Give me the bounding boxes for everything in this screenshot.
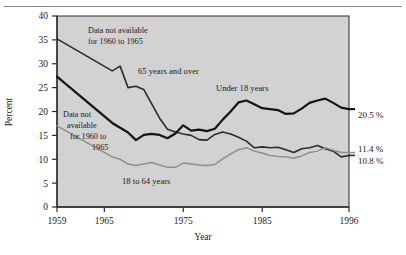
chart-svg: 0510152025303540 19591965197519851996 Pe… (0, 0, 406, 255)
y-tick-label: 5 (43, 179, 48, 189)
x-tick-label: 1985 (253, 216, 272, 226)
y-axis-ticks: 0510152025303540 (39, 11, 58, 212)
series-label-children: Under 18 years (216, 83, 269, 93)
end-label-elderly: 10.8 % (358, 156, 384, 166)
y-tick-label: 25 (39, 83, 49, 93)
x-axis-title: Year (194, 232, 212, 242)
y-tick-label: 35 (39, 35, 49, 45)
x-tick-label: 1975 (174, 216, 193, 226)
series-label-elderly: 65 years and over (138, 66, 199, 76)
y-tick-label: 40 (39, 11, 49, 21)
poverty-rate-line-chart: 0510152025303540 19591965197519851996 Pe… (0, 0, 406, 255)
y-tick-label: 0 (43, 202, 48, 212)
annotation-mid-line1: Data not (63, 110, 92, 119)
annotation-mid-line2: available (67, 121, 97, 130)
x-axis-ticks: 19591965197519851996 (48, 207, 359, 226)
annotation-top-line2: for 1960 to 1965 (88, 37, 143, 46)
x-tick-label: 1965 (95, 216, 114, 226)
y-tick-label: 30 (39, 59, 49, 69)
annotation-mid-line4: 1965 (92, 143, 108, 152)
x-tick-label: 1959 (48, 216, 67, 226)
annotation-mid-line3: for 1960 to (70, 132, 106, 141)
y-tick-label: 10 (39, 155, 49, 165)
y-axis-title: Percent (4, 97, 14, 126)
y-tick-label: 20 (39, 107, 49, 117)
end-label-children: 20.5 % (358, 110, 384, 120)
annotation-top-line1: Data not available (88, 26, 148, 35)
x-tick-label: 1996 (340, 216, 359, 226)
end-label-adults: 11.4 % (358, 144, 384, 154)
y-tick-label: 15 (39, 131, 49, 141)
series-label-adults: 18 to 64 years (122, 176, 171, 186)
